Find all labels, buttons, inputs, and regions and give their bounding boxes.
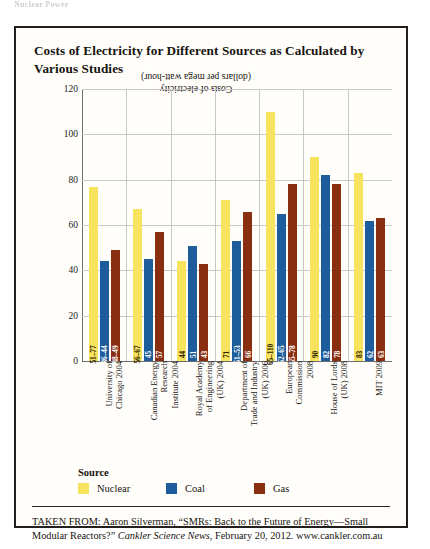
x-axis-category-label: Royal Academyof Engineering(UK) 2004 xyxy=(194,361,225,457)
chart-plot-area: Costs of electricity (dollars per mega w… xyxy=(26,89,396,361)
x-label-line: Royal Academy xyxy=(194,361,204,457)
category-separator xyxy=(348,89,349,361)
bar-gas[interactable]: 63 xyxy=(376,218,385,361)
caption-suffix: , February 20, 2012. www.cankler.com.au xyxy=(210,530,383,541)
x-label-line: Institute 2004 xyxy=(170,361,180,457)
x-label-line: (UK) 2006 xyxy=(260,361,270,457)
bar-group: 7151–5366 xyxy=(215,89,259,361)
bar-value-label: 45 xyxy=(144,351,153,358)
x-label-line: House of Lords xyxy=(329,361,339,457)
x-label-line: Chicago 2004 xyxy=(115,361,125,457)
bar-coal[interactable]: 36–44 xyxy=(100,261,109,361)
bar-nuclear[interactable]: 44 xyxy=(177,261,186,361)
bar-group: 445143 xyxy=(171,89,215,361)
y-tick-label: 60 xyxy=(48,220,78,230)
x-axis-labels: University ofChicago 2004Canadian Energy… xyxy=(26,361,396,453)
x-label-line: University of xyxy=(104,361,114,457)
caption-divider xyxy=(32,506,390,507)
bar-value-label: 78 xyxy=(332,351,341,358)
bar-coal[interactable]: 82 xyxy=(321,175,330,361)
figure-caption: TAKEN FROM: Aaron Silverman, “SMRs: Back… xyxy=(32,515,390,543)
x-axis-category-label: Department ofTrade and Industry(UK) 2006 xyxy=(239,361,270,457)
bar-gas[interactable]: 57 xyxy=(155,232,164,361)
bar-nuclear[interactable]: 56–67 xyxy=(133,209,142,361)
bar-gas[interactable]: 38–49 xyxy=(111,250,120,361)
x-label-line: MIT 2009 xyxy=(374,361,384,457)
bar-value-label: 90 xyxy=(310,351,319,358)
x-label-line: (UK) 2008 xyxy=(339,361,349,457)
x-label-line: Trade and Industry xyxy=(249,361,259,457)
x-label-line: Canadian Energy xyxy=(149,361,159,457)
bar-nuclear[interactable]: 51–77 xyxy=(89,187,98,362)
bar-value-label: 43 xyxy=(199,351,208,358)
x-label-line: European xyxy=(284,361,294,457)
bar-gas[interactable]: 78 xyxy=(332,184,341,361)
legend-swatch-icon xyxy=(166,483,177,494)
bar-nuclear[interactable]: 83 xyxy=(354,173,363,361)
x-label-line: 2008 xyxy=(305,361,315,457)
category-separator xyxy=(126,89,127,361)
bar-gas[interactable]: 65–78 xyxy=(288,184,297,361)
legend-label: Coal xyxy=(185,483,205,494)
y-tick-label: 80 xyxy=(48,175,78,185)
bar-value-label: 57 xyxy=(155,351,164,358)
chart-legend: Source NuclearCoalGas xyxy=(78,467,406,494)
bar-nuclear[interactable]: 71 xyxy=(221,200,230,361)
legend-items: NuclearCoalGas xyxy=(78,483,406,494)
bar-value-label: 63 xyxy=(376,351,385,358)
legend-swatch-icon xyxy=(78,483,89,494)
x-label-line: (UK) 2004 xyxy=(215,361,225,457)
legend-item-gas[interactable]: Gas xyxy=(254,483,342,494)
y-tick-label: 120 xyxy=(48,84,78,94)
bar-coal[interactable]: 45 xyxy=(144,259,153,361)
bar-value-label: 83 xyxy=(354,351,363,358)
bar-coal[interactable]: 62 xyxy=(365,221,374,362)
bar-gas[interactable]: 43 xyxy=(199,264,208,361)
x-label-line: Research xyxy=(160,361,170,457)
category-separator xyxy=(215,89,216,361)
x-axis-category-label: House of Lords(UK) 2008 xyxy=(329,361,350,457)
bar-nuclear[interactable]: 90 xyxy=(310,157,319,361)
category-separator xyxy=(259,89,260,361)
x-axis-category-label: University ofChicago 2004 xyxy=(104,361,125,457)
figure-container: Costs of Electricity for Different Sourc… xyxy=(14,26,408,528)
x-label-line: Commission xyxy=(294,361,304,457)
bar-group: 836263 xyxy=(348,89,392,361)
bar-nuclear[interactable]: 65–110 xyxy=(266,112,275,361)
x-label-line: Department of xyxy=(239,361,249,457)
axes: 020406080100120 51–7736–4438–4956–674557… xyxy=(82,89,392,361)
bar-gas[interactable]: 66 xyxy=(243,212,252,362)
bar-value-label: 62 xyxy=(365,351,374,358)
legend-swatch-icon xyxy=(254,483,265,494)
y-tick-label: 100 xyxy=(48,129,78,139)
x-axis-category-label: EuropeanCommission2008 xyxy=(284,361,315,457)
y-axis-label: Costs of electricity (dollars per mega w… xyxy=(30,0,230,89)
bar-group: 908278 xyxy=(303,89,347,361)
bar-coal[interactable]: 52–65 xyxy=(277,214,286,361)
bar-group: 51–7736–4438–49 xyxy=(82,89,126,361)
y-axis-label-line2: (dollars per mega watt-hour) xyxy=(96,71,296,83)
bar-group: 56–674557 xyxy=(126,89,170,361)
legend-item-coal[interactable]: Coal xyxy=(166,483,254,494)
bars-layer: 51–7736–4438–4956–6745574451437151–53666… xyxy=(82,89,392,361)
x-axis-category-label: Canadian EnergyResearchInstitute 2004 xyxy=(149,361,180,457)
bar-value-label: 82 xyxy=(321,351,330,358)
x-axis-category-label: MIT 2009 xyxy=(374,361,384,457)
bar-value-label: 71 xyxy=(221,351,230,358)
legend-title: Source xyxy=(78,467,406,478)
legend-label: Nuclear xyxy=(97,483,130,494)
bar-value-label: 44 xyxy=(177,351,186,358)
legend-label: Gas xyxy=(273,483,289,494)
legend-item-nuclear[interactable]: Nuclear xyxy=(78,483,166,494)
bar-value-label: 66 xyxy=(243,351,252,358)
bar-coal[interactable]: 51–53 xyxy=(232,241,241,361)
category-separator xyxy=(303,89,304,361)
caption-source-italic: Cankler Science News xyxy=(118,530,210,541)
bar-value-label: 51 xyxy=(188,351,197,358)
y-tick-label: 20 xyxy=(48,311,78,321)
x-label-line: of Engineering xyxy=(205,361,215,457)
category-separator xyxy=(171,89,172,361)
y-tick-label: 40 xyxy=(48,265,78,275)
bar-coal[interactable]: 51 xyxy=(188,246,197,362)
bar-group: 65–11052–6565–78 xyxy=(259,89,303,361)
